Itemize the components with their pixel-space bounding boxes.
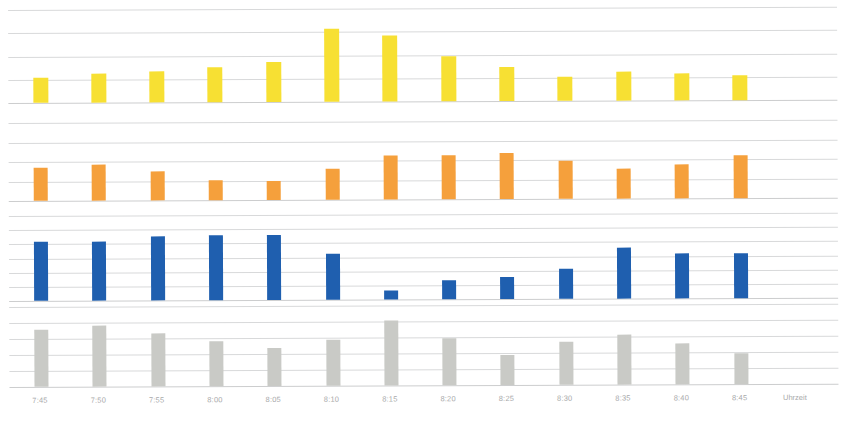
bar bbox=[442, 155, 456, 200]
x-tick-label: 8:45 bbox=[720, 393, 760, 402]
bar bbox=[442, 280, 456, 299]
bar bbox=[267, 235, 281, 300]
chart-panel-4-gray bbox=[1, 304, 845, 387]
bar bbox=[559, 342, 573, 385]
bar bbox=[209, 180, 223, 200]
x-tick-label: 8:20 bbox=[428, 394, 468, 403]
bar bbox=[92, 242, 106, 301]
bar bbox=[34, 329, 48, 386]
x-tick-label: 7:45 bbox=[20, 396, 60, 405]
bar bbox=[384, 321, 398, 386]
panel-2-bars bbox=[0, 120, 845, 201]
bar bbox=[500, 153, 514, 199]
x-tick-label: 7:50 bbox=[78, 396, 118, 405]
bar bbox=[732, 75, 747, 100]
panel-4-bars bbox=[1, 304, 845, 387]
bar bbox=[557, 77, 572, 101]
bar bbox=[150, 172, 164, 201]
bar bbox=[501, 355, 515, 385]
bar bbox=[208, 67, 223, 102]
bar bbox=[149, 72, 164, 103]
x-tick-label: 8:30 bbox=[545, 394, 585, 403]
bar bbox=[617, 248, 631, 299]
x-tick-label: 8:05 bbox=[253, 395, 293, 404]
bar bbox=[384, 290, 398, 299]
chart-panel-2-orange bbox=[0, 120, 845, 201]
bar bbox=[92, 165, 106, 201]
bar bbox=[326, 340, 340, 386]
bar bbox=[268, 348, 282, 386]
bar bbox=[266, 62, 281, 102]
x-tick-label: 8:35 bbox=[603, 394, 643, 403]
bar bbox=[324, 29, 339, 102]
x-tick-label: 8:00 bbox=[195, 395, 235, 404]
bar bbox=[674, 73, 689, 100]
bar bbox=[733, 155, 747, 198]
bar bbox=[676, 344, 690, 385]
chart-container: 7:457:507:558:008:058:108:158:208:258:30… bbox=[0, 0, 845, 435]
x-tick-label: 8:10 bbox=[312, 395, 352, 404]
x-tick-label: 7:55 bbox=[137, 395, 177, 404]
bar bbox=[34, 168, 48, 201]
chart-panel-3-blue bbox=[1, 213, 845, 301]
bar bbox=[617, 168, 631, 198]
panel-3-bars bbox=[1, 213, 845, 301]
panel-1-bars bbox=[0, 7, 845, 103]
bar bbox=[675, 164, 689, 198]
bar bbox=[33, 78, 48, 103]
bar bbox=[267, 181, 281, 200]
bar bbox=[151, 236, 165, 300]
bar bbox=[383, 155, 397, 200]
bar bbox=[325, 169, 339, 200]
x-tick-label: 8:15 bbox=[370, 394, 410, 403]
bar bbox=[441, 57, 456, 102]
bar bbox=[209, 235, 223, 300]
bar bbox=[675, 253, 689, 298]
bar bbox=[500, 277, 514, 300]
bar bbox=[617, 335, 631, 385]
bar bbox=[442, 339, 456, 386]
bar bbox=[734, 353, 748, 384]
x-axis: 7:457:507:558:008:058:108:158:208:258:30… bbox=[0, 389, 845, 422]
bar bbox=[209, 341, 223, 386]
panels-stack bbox=[0, 0, 845, 400]
bar bbox=[34, 241, 48, 301]
bar bbox=[382, 35, 397, 101]
x-axis-title: Uhrzeit bbox=[783, 393, 807, 402]
chart-panel-1-yellow bbox=[0, 7, 845, 103]
bar bbox=[559, 268, 573, 298]
bar bbox=[93, 326, 107, 387]
bar bbox=[151, 334, 165, 387]
bar bbox=[734, 253, 748, 298]
bar bbox=[325, 254, 339, 300]
bar bbox=[616, 72, 631, 101]
bar bbox=[558, 161, 572, 199]
x-tick-label: 8:40 bbox=[661, 393, 701, 402]
bar bbox=[91, 74, 106, 103]
x-tick-label: 8:25 bbox=[486, 394, 526, 403]
bar bbox=[499, 67, 514, 101]
